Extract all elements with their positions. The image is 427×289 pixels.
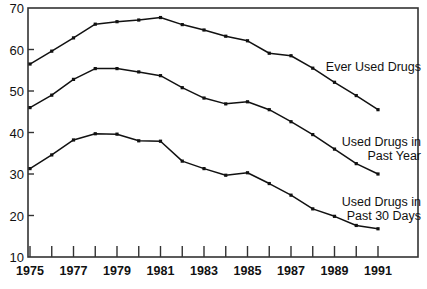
series-label-2: Used Drugs in	[342, 195, 421, 209]
data-point-marker	[159, 74, 162, 77]
data-point-marker	[246, 39, 249, 42]
data-point-marker	[115, 67, 118, 70]
series-label-1: Used Drugs in	[342, 135, 421, 149]
data-point-marker	[289, 194, 292, 197]
data-point-marker	[268, 52, 271, 55]
data-point-marker	[289, 54, 292, 57]
data-point-marker	[159, 140, 162, 143]
data-point-marker	[72, 78, 75, 81]
x-tick-label: 1985	[234, 264, 262, 278]
data-point-marker	[137, 139, 140, 142]
x-tick-label: 1975	[16, 264, 44, 278]
data-point-marker	[268, 108, 271, 111]
y-tick-label: 20	[10, 209, 24, 224]
data-point-marker	[181, 160, 184, 163]
data-point-marker	[311, 133, 314, 136]
data-point-marker	[28, 167, 31, 170]
data-point-marker	[94, 67, 97, 70]
x-axis-tick-labels: 197519771979198119831985198719891991	[16, 264, 392, 278]
x-tick-label: 1981	[147, 264, 175, 278]
y-tick-label: 40	[10, 126, 24, 141]
series-label-0: Ever Used Drugs	[326, 60, 421, 74]
data-point-marker	[50, 94, 53, 97]
data-point-marker	[289, 120, 292, 123]
chart-canvas: 10203040506070 1975197719791981198319851…	[0, 0, 427, 289]
x-tick-label: 1979	[103, 264, 131, 278]
x-tick-label: 1989	[321, 264, 349, 278]
x-tick-label: 1987	[277, 264, 305, 278]
x-tick-label: 1983	[190, 264, 218, 278]
data-point-marker	[94, 132, 97, 135]
data-point-marker	[246, 171, 249, 174]
data-point-marker	[50, 50, 53, 53]
y-tick-label: 60	[10, 43, 24, 58]
data-point-marker	[137, 18, 140, 21]
data-point-marker	[181, 23, 184, 26]
data-point-marker	[28, 62, 31, 65]
data-point-marker	[311, 67, 314, 70]
data-point-marker	[224, 35, 227, 38]
y-tick-label: 30	[10, 167, 24, 182]
y-tick-label: 50	[10, 84, 24, 99]
data-point-marker	[333, 81, 336, 84]
data-point-marker	[376, 108, 379, 111]
x-tick-label: 1977	[60, 264, 88, 278]
data-point-marker	[376, 172, 379, 175]
data-point-marker	[355, 162, 358, 165]
data-point-marker	[28, 106, 31, 109]
data-point-marker	[159, 16, 162, 19]
data-point-marker	[50, 153, 53, 156]
y-tick-label: 70	[10, 1, 24, 16]
data-point-marker	[224, 174, 227, 177]
data-point-marker	[72, 138, 75, 141]
data-point-marker	[268, 182, 271, 185]
data-point-marker	[94, 23, 97, 26]
data-point-marker	[137, 70, 140, 73]
y-tick-label: 10	[10, 250, 24, 265]
data-point-marker	[115, 133, 118, 136]
data-point-marker	[333, 148, 336, 151]
data-point-marker	[355, 94, 358, 97]
data-point-marker	[376, 227, 379, 230]
data-point-marker	[355, 224, 358, 227]
data-point-marker	[311, 207, 314, 210]
series-label-1: Past Year	[367, 149, 421, 163]
data-point-marker	[202, 167, 205, 170]
drug-use-trend-chart: 10203040506070 1975197719791981198319851…	[0, 0, 427, 289]
data-point-marker	[72, 36, 75, 39]
data-point-marker	[202, 96, 205, 99]
x-tick-label: 1991	[364, 264, 392, 278]
data-point-marker	[224, 102, 227, 105]
data-point-marker	[181, 86, 184, 89]
data-point-marker	[333, 215, 336, 218]
series-label-2: Past 30 Days	[347, 209, 421, 223]
data-point-marker	[202, 28, 205, 31]
data-point-marker	[115, 20, 118, 23]
data-point-marker	[246, 100, 249, 103]
